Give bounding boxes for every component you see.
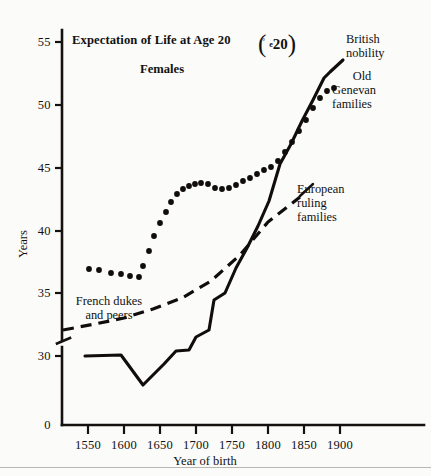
life-expectancy-notation: (°e20) <box>258 31 296 56</box>
chart-subtitle: Females <box>140 62 184 77</box>
notation-age: 20 <box>273 36 288 52</box>
y-tick-label-50: 50 <box>25 98 51 113</box>
chart-figure: Expectation of Life at Age 20 (°e20) Fem… <box>0 0 431 476</box>
label-old-genevan-families: Old Genevan families <box>332 70 392 112</box>
label-french-dukes-and-peers: French dukes and peers <box>54 295 164 323</box>
x-tick-label-1700: 1700 <box>176 438 216 453</box>
label-genevan-line1: Old <box>332 70 392 84</box>
x-tick-label-1900: 1900 <box>320 438 360 453</box>
x-tick-label-1550: 1550 <box>68 438 108 453</box>
label-british-nobility-line2: nobility <box>346 47 385 61</box>
y-axis-break <box>57 338 70 344</box>
paren-close: ) <box>288 30 296 57</box>
label-european-line2: ruling <box>297 197 344 211</box>
label-british-nobility-line1: British <box>346 33 385 47</box>
y-tick-label-0: 0 <box>25 418 51 433</box>
x-tick-label-1650: 1650 <box>140 438 180 453</box>
y-axis-title: Years <box>16 230 31 258</box>
x-tick-label-1850: 1850 <box>284 438 324 453</box>
y-tick-label-35: 35 <box>25 286 51 301</box>
label-genevan-line3: families <box>332 98 392 112</box>
y-tick-label-45: 45 <box>25 161 51 176</box>
chart-title: Expectation of Life at Age 20 <box>72 33 231 48</box>
x-tick-label-1750: 1750 <box>212 438 252 453</box>
label-european-line1: European <box>297 183 344 197</box>
label-european-ruling-families: European ruling families <box>297 183 344 225</box>
x-tick-label-1600: 1600 <box>104 438 144 453</box>
label-french-line1: French dukes <box>54 295 164 309</box>
notation-degree: ° <box>262 37 265 45</box>
x-tick-marks <box>88 425 340 434</box>
label-french-line2: and peers <box>54 309 164 323</box>
page-bottom-rule <box>0 467 431 468</box>
label-genevan-line2: Genevan <box>332 84 392 98</box>
label-european-line3: families <box>297 211 344 225</box>
y-tick-label-55: 55 <box>25 35 51 50</box>
label-british-nobility: British nobility <box>346 33 385 61</box>
x-tick-label-1800: 1800 <box>248 438 288 453</box>
y-tick-label-30: 30 <box>25 349 51 364</box>
